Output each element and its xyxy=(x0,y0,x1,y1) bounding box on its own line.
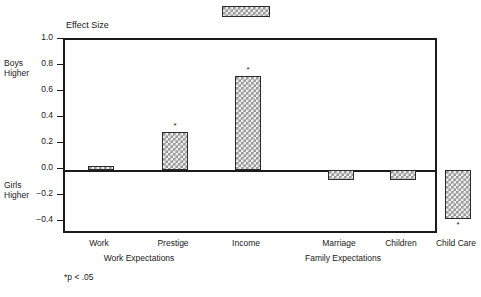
y-axis-tick xyxy=(57,64,63,65)
significance-marker-prestige: * xyxy=(165,122,185,130)
y-axis-tick-label: 0.8 xyxy=(19,59,53,68)
significance-marker-child-care: * xyxy=(448,221,468,229)
significance-footnote: *p < .05 xyxy=(64,272,94,282)
bar-child-care xyxy=(445,170,471,219)
y-axis-tick xyxy=(57,142,63,143)
group-label-family-expectations: Family Expectations xyxy=(268,253,418,263)
bar-fill-pattern-swatch xyxy=(222,6,270,17)
y-axis-tick-label: −0.4 xyxy=(19,215,53,224)
x-axis-label-child-care: Child Care xyxy=(426,238,481,248)
group-label-work-expectations: Work Expectations xyxy=(64,253,214,263)
plot-inner: *** xyxy=(65,40,435,231)
boys-higher-line2: Higher xyxy=(4,68,40,78)
x-axis-label-income: Income xyxy=(216,238,276,248)
y-axis-tick xyxy=(57,116,63,117)
y-axis-tick xyxy=(57,168,63,169)
y-axis-title: Effect Size xyxy=(66,20,109,31)
bar-children xyxy=(390,170,416,180)
y-axis-tick-label: 0.2 xyxy=(19,137,53,146)
y-axis-tick-label: 1.0 xyxy=(19,33,53,42)
bar-work xyxy=(88,166,114,170)
y-axis-tick xyxy=(57,194,63,195)
y-axis-tick xyxy=(57,220,63,221)
x-axis-label-children: Children xyxy=(371,238,431,248)
x-axis-label-marriage: Marriage xyxy=(309,238,369,248)
y-axis-tick-label: −0.2 xyxy=(19,189,53,198)
bar-marriage xyxy=(328,170,354,180)
y-axis-tick-label: 0.6 xyxy=(19,85,53,94)
bar-income xyxy=(235,76,261,170)
y-axis-tick-label: 0.4 xyxy=(19,111,53,120)
significance-marker-income: * xyxy=(238,66,258,74)
x-axis-label-prestige: Prestige xyxy=(143,238,203,248)
bar-prestige xyxy=(162,132,188,170)
plot-area: *** xyxy=(63,38,437,233)
zero-baseline xyxy=(65,170,435,172)
y-axis-tick xyxy=(57,90,63,91)
y-axis-tick xyxy=(57,38,63,39)
x-axis-label-work: Work xyxy=(69,238,129,248)
y-axis-tick-label: 0.0 xyxy=(19,163,53,172)
